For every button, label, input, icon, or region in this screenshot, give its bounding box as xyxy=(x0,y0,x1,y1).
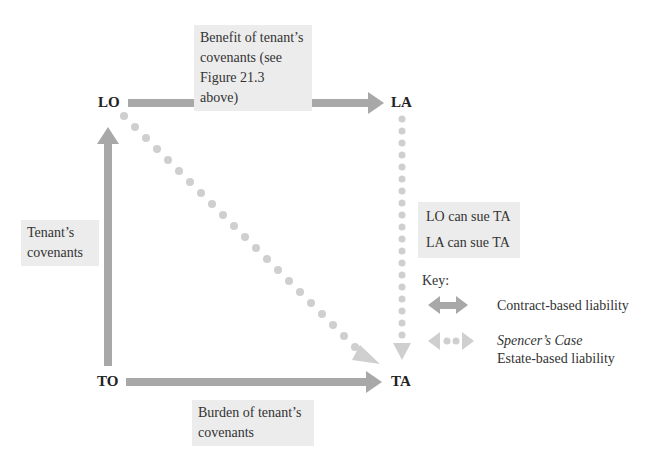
node-ta: TA xyxy=(391,373,411,390)
label-tenants-covenants: Tenant’s covenants xyxy=(21,220,99,266)
node-to: TO xyxy=(97,373,118,390)
label-burden: Burden of tenant’s covenants xyxy=(192,400,314,446)
arrow-la-to-ta-dotted xyxy=(393,116,411,361)
label-benefit: Benefit of tenant’s covenants (see Figur… xyxy=(194,25,312,111)
label-can-sue: LO can sue TA LA can sue TA xyxy=(418,202,520,258)
key-estate-label: Estate-based liability xyxy=(497,349,615,369)
arrow-to-to-lo xyxy=(97,127,119,366)
node-lo: LO xyxy=(98,94,120,111)
key-title: Key: xyxy=(422,271,449,291)
arrow-to-to-ta xyxy=(126,371,382,393)
node-la: LA xyxy=(391,94,412,111)
key-contract-label: Contract-based liability xyxy=(497,296,629,316)
key-estate-arrow-icon xyxy=(428,332,474,350)
arrow-lo-to-ta-dotted xyxy=(120,112,380,364)
key-contract-arrow-icon xyxy=(428,296,468,314)
key-spencer-label: Spencer’s Case xyxy=(497,331,582,351)
